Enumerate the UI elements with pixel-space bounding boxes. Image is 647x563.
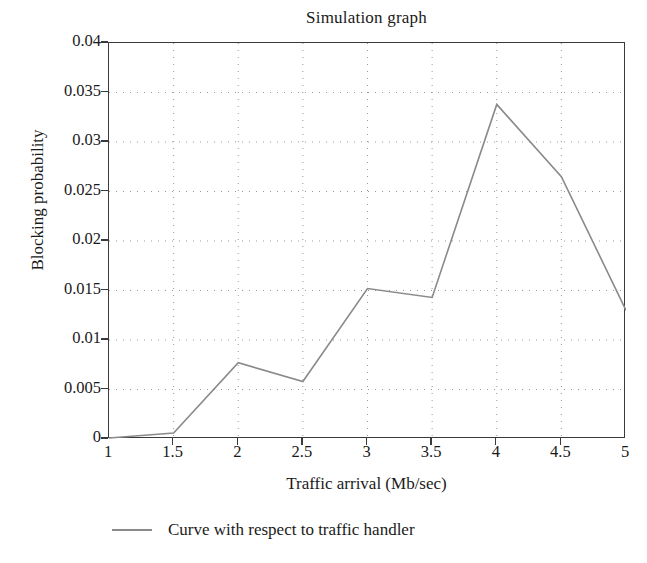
- figure-canvas: Simulation graph Blocking probability 00…: [0, 0, 647, 563]
- x-axis-title: Traffic arrival (Mb/sec): [108, 474, 625, 494]
- y-axis-tick-mark: [101, 338, 108, 339]
- y-axis-tick-labels: 00.0050.010.0150.020.0250.030.0350.04: [0, 0, 101, 563]
- y-axis-tick-label: 0.005: [64, 380, 101, 397]
- y-axis-tick-mark: [101, 289, 108, 290]
- legend: Curve with respect to traffic handler: [108, 520, 625, 540]
- legend-label: Curve with respect to traffic handler: [168, 520, 415, 540]
- legend-line-swatch: [112, 529, 152, 531]
- y-axis-tick-mark: [101, 41, 108, 42]
- y-axis-tick-mark: [101, 437, 108, 438]
- y-axis-tick-mark: [101, 388, 108, 389]
- y-axis-tick-mark: [101, 140, 108, 141]
- plot-area: [108, 42, 625, 438]
- x-axis-tick-label: 3: [337, 444, 397, 461]
- x-axis-tick-label: 1: [78, 444, 138, 461]
- y-axis-tick-label: 0.01: [72, 330, 101, 347]
- y-axis-tick-mark: [101, 190, 108, 191]
- x-axis-tick-label: 3.5: [401, 444, 461, 461]
- y-axis-tick-label: 0.025: [64, 182, 101, 199]
- vertical-gridlines: [174, 43, 562, 439]
- data-series-line: [109, 104, 626, 438]
- y-axis-tick-label: 0.03: [72, 132, 101, 149]
- x-axis-tick-label: 4.5: [530, 444, 590, 461]
- x-axis-tick-label: 2: [207, 444, 267, 461]
- x-axis-tick-label: 4: [466, 444, 526, 461]
- y-axis-tick-label: 0.015: [64, 281, 101, 298]
- chart-title: Simulation graph: [108, 8, 625, 28]
- data-series-group: [109, 104, 626, 438]
- x-axis-tick-label: 5: [595, 444, 647, 461]
- y-axis-tick-mark: [101, 91, 108, 92]
- plot-svg: [109, 43, 626, 439]
- x-axis-tick-label: 1.5: [143, 444, 203, 461]
- y-axis-tick-mark: [101, 239, 108, 240]
- y-axis-tick-label: 0.02: [72, 231, 101, 248]
- y-axis-tick-label: 0.04: [72, 33, 101, 50]
- y-axis-tick-label: 0.035: [64, 83, 101, 100]
- x-axis-tick-label: 2.5: [272, 444, 332, 461]
